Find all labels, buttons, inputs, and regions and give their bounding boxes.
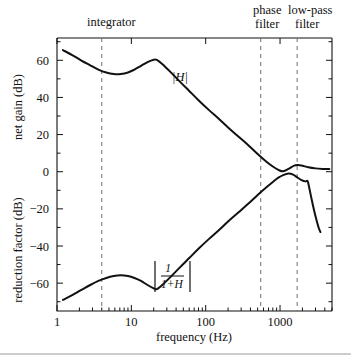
- curve-h: [63, 50, 329, 171]
- x-ticklabel: 100: [196, 315, 215, 329]
- bode-plot-svg: integrator phase filter low-pass filter …: [0, 0, 351, 360]
- curve-label-H-text: |H|: [172, 70, 188, 84]
- annotation-integrator: integrator: [87, 15, 136, 29]
- reduction-label-denominator: 1+H: [161, 278, 184, 290]
- figure-root: integrator phase filter low-pass filter …: [0, 0, 351, 360]
- y-axis-title-reduction-factor: reduction factor (dB): [11, 197, 25, 303]
- y-ticklabel: 0: [43, 165, 49, 179]
- y-ticklabel: −60: [29, 277, 49, 291]
- annotation-phase-filter-line2: filter: [255, 17, 280, 31]
- y-axis-title-net-gain: net gain (dB): [11, 74, 25, 140]
- vertical-marker-lines: [102, 38, 297, 311]
- annotation-phase-filter-line1: phase: [253, 3, 282, 17]
- x-ticklabel: 10: [125, 315, 138, 329]
- y-ticklabel: −40: [29, 240, 49, 254]
- annotation-low-pass-filter-line2: filter: [295, 17, 320, 31]
- x-ticklabel: 1: [54, 315, 60, 329]
- data-curves: [63, 50, 329, 300]
- curve-label-open-loop: |H|: [172, 70, 188, 84]
- y-ticklabel: 60: [37, 54, 50, 68]
- annotation-low-pass-filter-line1: low-pass: [288, 3, 333, 17]
- x-axis-title: frequency (Hz): [156, 330, 232, 344]
- y-ticklabel: −20: [29, 202, 49, 216]
- curve-label-reduction-factor: 1 1+H: [155, 261, 190, 292]
- reduction-label-numerator: 1: [165, 262, 171, 274]
- y-ticklabel: 20: [37, 128, 50, 142]
- x-axis-ticks: 1101001000: [54, 38, 332, 329]
- y-ticklabel: 40: [37, 91, 50, 105]
- x-ticklabel: 1000: [268, 315, 293, 329]
